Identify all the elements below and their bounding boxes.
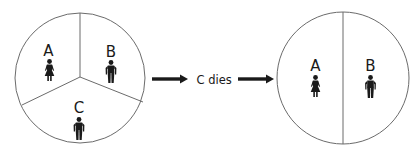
section-label-a: A (43, 42, 54, 60)
female-person-icon (311, 75, 321, 97)
male-person-icon (74, 117, 85, 140)
section-label-a: A (310, 57, 321, 75)
after-circle: A B (277, 12, 409, 144)
transition-label: C dies (197, 73, 232, 87)
section-label-c: C (74, 99, 84, 117)
male-person-icon (365, 75, 376, 98)
section-label-b: B (106, 43, 116, 61)
right-arrow-icon (152, 75, 188, 84)
male-person-icon (106, 60, 117, 83)
female-person-icon (45, 59, 55, 81)
right-arrow-icon (238, 75, 274, 84)
divider-line (22, 77, 80, 105)
section-label-b: B (365, 57, 375, 75)
inheritance-diagram: A B C C dies A B (0, 0, 420, 150)
before-circle: A B C (15, 13, 145, 143)
